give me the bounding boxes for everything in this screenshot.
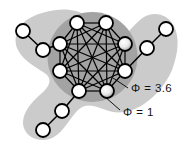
node-p3[interactable]: [159, 22, 173, 36]
node-p2[interactable]: [36, 43, 50, 57]
network-diagram-figure: Φ = 3.6 Φ = 1: [0, 0, 187, 147]
node-p6[interactable]: [36, 123, 50, 137]
node-p5[interactable]: [55, 104, 69, 118]
node-c6[interactable]: [72, 84, 86, 98]
node-c2[interactable]: [99, 16, 113, 30]
core-phi-label: Φ = 3.6: [131, 82, 172, 94]
outer-phi-label: Φ = 1: [123, 106, 154, 118]
node-p1[interactable]: [16, 24, 30, 38]
node-c1[interactable]: [70, 16, 84, 30]
node-p4[interactable]: [140, 41, 154, 55]
node-c4[interactable]: [118, 64, 132, 78]
node-c8[interactable]: [53, 37, 67, 51]
node-c3-highlight[interactable]: [118, 37, 132, 51]
node-c7[interactable]: [53, 64, 67, 78]
diagram-canvas: Φ = 3.6 Φ = 1: [0, 0, 187, 147]
node-c5-highlight[interactable]: [100, 84, 114, 98]
